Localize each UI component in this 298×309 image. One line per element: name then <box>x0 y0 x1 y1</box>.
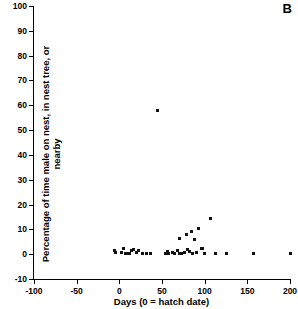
y-axis-tick-label: 0 <box>22 249 27 259</box>
data-point <box>289 252 292 255</box>
plot-area <box>34 6 290 279</box>
data-point <box>156 109 159 112</box>
x-axis-tick-label: 50 <box>157 286 166 296</box>
data-point <box>149 252 152 255</box>
x-axis-tick-label: 150 <box>240 286 254 296</box>
data-point <box>178 237 181 240</box>
y-axis-tick-label: 70 <box>18 75 27 85</box>
x-axis-tick <box>119 279 120 284</box>
data-point <box>185 233 188 236</box>
x-axis-tick <box>162 279 163 284</box>
x-axis-tick-label: 100 <box>198 286 212 296</box>
plot-frame: -100102030405060708090100-100-5005010015… <box>33 6 290 280</box>
data-point <box>203 252 206 255</box>
y-axis-tick-label: -10 <box>15 274 27 284</box>
y-axis-tick <box>29 31 34 32</box>
y-axis-tick <box>29 180 34 181</box>
y-axis-tick <box>29 130 34 131</box>
y-axis-tick <box>29 80 34 81</box>
data-point <box>214 252 217 255</box>
y-axis-tick <box>29 6 34 7</box>
data-point <box>173 252 176 255</box>
x-axis-tick-label: 200 <box>283 286 297 296</box>
data-point <box>122 247 125 250</box>
x-axis-tick <box>77 279 78 284</box>
y-axis-tick-label: 90 <box>18 26 27 36</box>
x-axis-tick-label: -50 <box>71 286 83 296</box>
x-axis-title: Days (0 = hatch date) <box>33 296 290 307</box>
y-axis-tick-label: 20 <box>18 200 27 210</box>
y-axis-tick-label: 60 <box>18 100 27 110</box>
x-axis-tick <box>205 279 206 284</box>
y-axis-tick <box>29 229 34 230</box>
y-axis-tick <box>29 205 34 206</box>
data-point <box>225 252 228 255</box>
y-axis-tick-label: 40 <box>18 150 27 160</box>
x-axis-tick <box>290 279 291 284</box>
data-point <box>193 238 196 241</box>
y-axis-title: Percentage of time male on nest, in nest… <box>40 39 62 269</box>
y-axis-tick <box>29 155 34 156</box>
data-point <box>183 251 186 254</box>
data-point <box>209 217 212 220</box>
data-point <box>128 252 131 255</box>
data-point <box>197 227 200 230</box>
figure-panel-b: B -100102030405060708090100-100-50050100… <box>0 0 298 309</box>
data-point <box>190 230 193 233</box>
y-axis-tick <box>29 56 34 57</box>
y-axis-tick-label: 100 <box>13 1 27 11</box>
data-point <box>114 251 117 254</box>
data-point <box>137 249 140 252</box>
y-axis-tick <box>29 105 34 106</box>
x-axis-tick <box>34 279 35 284</box>
data-point <box>252 252 255 255</box>
data-point <box>195 251 198 254</box>
y-axis-tick-label: 80 <box>18 51 27 61</box>
data-point <box>141 252 144 255</box>
y-axis-tick-label: 50 <box>18 125 27 135</box>
data-point <box>145 252 148 255</box>
y-axis-tick-label: 30 <box>18 175 27 185</box>
data-point <box>120 251 123 254</box>
x-axis-tick <box>247 279 248 284</box>
y-axis-tick-label: 10 <box>18 224 27 234</box>
y-axis-tick <box>29 254 34 255</box>
data-point <box>201 247 204 250</box>
x-axis-tick-label: 0 <box>117 286 122 296</box>
x-axis-tick-label: -100 <box>25 286 42 296</box>
